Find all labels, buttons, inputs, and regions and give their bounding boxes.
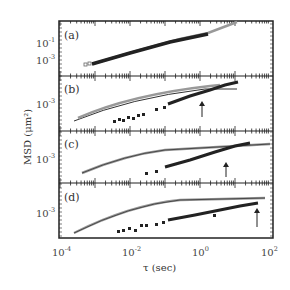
panel-a-data [84,22,237,66]
xtick-2: 10-2 [122,245,141,258]
ytick-d: 10-3 [36,206,55,219]
xtick-4: 102 [261,245,278,258]
arrow-icon [254,208,260,213]
panel-b-data [74,82,238,123]
axis-ticks [59,21,273,236]
xtick-1: 10-4 [52,245,71,258]
ytick-a-1: 10-1 [36,36,55,49]
panel-label-b: (b) [64,83,80,96]
msd-figure: (a) (b) (c) (d) 10-1 10-3 10-3 10-3 10-3… [0,0,290,290]
panel-c-data [82,143,270,177]
arrow-icon [199,101,205,106]
ytick-c: 10-3 [36,152,55,165]
panel-label-d: (d) [64,191,80,204]
xtick-3: 100 [192,245,209,258]
panel-label-c: (c) [64,138,79,151]
panel-d-data [74,198,265,233]
arrow-icon [223,162,229,167]
ytick-a-2: 10-3 [36,53,55,66]
ytick-b: 10-3 [36,97,55,110]
x-axis-label: τ (sec) [143,262,176,273]
y-axis-label: MSD (μm²) [22,109,33,165]
panel-label-a: (a) [64,29,79,42]
